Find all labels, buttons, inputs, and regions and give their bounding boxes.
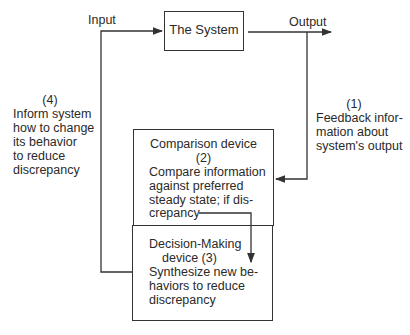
decision-line-2: haviors to reduce — [149, 279, 245, 294]
decision-title-1: Decision-Making — [149, 237, 241, 252]
comparison-title: Comparison device — [133, 137, 274, 152]
output-label: Output — [289, 15, 327, 30]
decision-title-2: device (3) — [162, 251, 217, 266]
step4-number: (4) — [38, 93, 62, 108]
comparison-line-1: Compare information — [149, 165, 266, 180]
step4-line-2: how to change — [13, 121, 94, 136]
step1-line-2: mation about — [316, 125, 388, 140]
system-label: The System — [165, 23, 243, 38]
step1-number: (1) — [342, 97, 366, 112]
comparison-line-2: against preferred — [149, 179, 244, 194]
step1-line-3: system's output — [316, 139, 402, 154]
decision-line-1: Synthesize new be- — [149, 265, 258, 280]
comparison-number: (2) — [133, 151, 274, 166]
decision-line-3: discrepancy — [149, 293, 216, 308]
step4-line-4: to reduce — [13, 149, 65, 164]
system-box: The System — [164, 11, 244, 51]
comparison-line-4: crepancy — [149, 206, 200, 221]
feedback-line — [276, 32, 307, 179]
step1-line-1: Feedback infor- — [316, 111, 403, 126]
step4-line-5: discrepancy — [13, 163, 80, 178]
input-label: Input — [88, 13, 116, 28]
step4-line-3: its behavior — [13, 135, 77, 150]
step4-line-1: Inform system — [13, 107, 92, 122]
